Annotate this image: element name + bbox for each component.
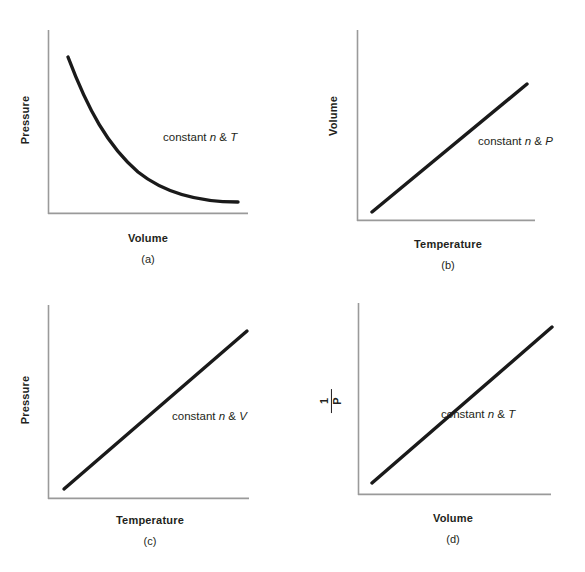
data-line-b bbox=[372, 84, 527, 212]
annotation-b: constant n & P bbox=[478, 135, 553, 147]
annotation-d-var2: T bbox=[508, 408, 515, 420]
annotation-d-prefix: constant bbox=[441, 408, 488, 420]
data-line-d bbox=[372, 327, 552, 483]
annotation-a-sep: & bbox=[216, 131, 230, 143]
y-axis-label-a: Pressure bbox=[19, 83, 31, 157]
annotation-c-sep: & bbox=[225, 410, 239, 422]
data-curve-a bbox=[68, 57, 238, 202]
y-axis-label-d: 1 P bbox=[319, 389, 343, 413]
annotation-b-prefix: constant bbox=[478, 135, 525, 147]
annotation-d: constant n & T bbox=[441, 408, 515, 420]
annotation-d-sep: & bbox=[494, 408, 508, 420]
chart-panel-a: Pressure constant n & T Volume (a) bbox=[0, 0, 292, 286]
y-axis-label-d-numerator: 1 bbox=[319, 389, 331, 413]
annotation-c-var2: V bbox=[239, 410, 247, 422]
caption-d: (d) bbox=[403, 533, 503, 545]
x-axis-label-c: Temperature bbox=[98, 514, 202, 526]
plot-d bbox=[293, 286, 585, 572]
y-axis-label-d-denominator: P bbox=[331, 389, 344, 413]
gas-laws-figure: Pressure constant n & T Volume (a) Volum… bbox=[0, 0, 585, 572]
caption-a: (a) bbox=[98, 253, 198, 265]
chart-panel-c: Pressure constant n & V Temperature (c) bbox=[0, 286, 292, 572]
annotation-b-sep: & bbox=[531, 135, 545, 147]
plot-c bbox=[0, 286, 292, 572]
annotation-c-prefix: constant bbox=[172, 410, 219, 422]
annotation-c: constant n & V bbox=[172, 410, 247, 422]
x-axis-label-a: Volume bbox=[98, 232, 198, 244]
y-axis-label-c: Pressure bbox=[19, 363, 31, 437]
caption-b: (b) bbox=[396, 259, 500, 271]
x-axis-label-b: Temperature bbox=[396, 238, 500, 250]
y-axis-label-b: Volume bbox=[327, 82, 339, 150]
annotation-a-var2: T bbox=[230, 131, 237, 143]
annotation-a: constant n & T bbox=[163, 131, 237, 143]
annotation-b-var2: P bbox=[545, 135, 553, 147]
chart-panel-b: Volume constant n & P Temperature (b) bbox=[293, 0, 585, 286]
annotation-a-prefix: constant bbox=[163, 131, 210, 143]
chart-panel-d: 1 P constant n & T Volume (d) bbox=[293, 286, 585, 572]
x-axis-label-d: Volume bbox=[403, 512, 503, 524]
caption-c: (c) bbox=[98, 535, 202, 547]
